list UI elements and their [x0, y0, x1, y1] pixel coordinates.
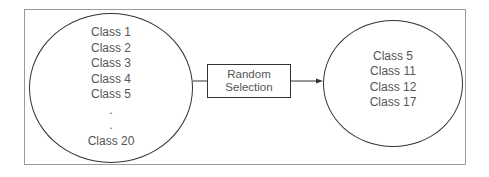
sample-item: Class 5: [373, 49, 413, 65]
ellipsis-dot: .: [109, 118, 112, 134]
population-item: Class 4: [91, 72, 131, 88]
process-label-line2: Selection: [225, 81, 272, 94]
random-selection-box: Random Selection: [207, 64, 291, 98]
sample-item: Class 17: [370, 95, 417, 111]
arrow-head-icon: [316, 79, 323, 84]
population-item: Class 2: [91, 41, 131, 57]
population-item: Class 20: [88, 134, 135, 150]
population-item: Class 5: [91, 87, 131, 103]
population-item: Class 3: [91, 56, 131, 72]
sample-ellipse: Class 5 Class 11 Class 12 Class 17: [323, 20, 463, 147]
population-item: Class 1: [91, 25, 131, 41]
sample-item: Class 12: [370, 80, 417, 96]
sample-item: Class 11: [370, 64, 416, 80]
ellipsis-dot: .: [109, 103, 112, 119]
population-ellipse: Class 1 Class 2 Class 3 Class 4 Class 5 …: [29, 13, 193, 163]
process-label-line1: Random: [227, 68, 270, 81]
